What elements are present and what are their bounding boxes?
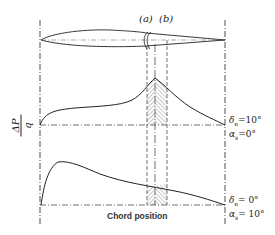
hinge-label-a: (a): [139, 13, 153, 24]
x-axis-label: Chord position: [107, 211, 167, 221]
lower-condition-delta: δe= 0°: [229, 195, 265, 209]
lower-plot-conditions: δe= 0° αs= 10°: [229, 195, 265, 223]
airfoil: [41, 30, 225, 49]
y-axis-numerator: ΔP: [10, 115, 22, 137]
y-axis-label: ΔP q: [10, 115, 33, 137]
y-axis-denominator: q: [22, 115, 33, 137]
upper-condition-delta: δe=10°: [229, 115, 261, 129]
lower-pressure-plot: [40, 162, 225, 205]
diagram-container: (a) (b) ΔP q δe=10° αs=0° δe= 0° αs= 10°…: [0, 0, 275, 235]
upper-pressure-plot: [40, 78, 225, 125]
lower-condition-alpha: αs= 10°: [229, 209, 265, 223]
hinge-label-b: (b): [159, 13, 173, 24]
upper-condition-alpha: αs=0°: [229, 129, 261, 143]
upper-plot-conditions: δe=10° αs=0°: [229, 115, 261, 143]
